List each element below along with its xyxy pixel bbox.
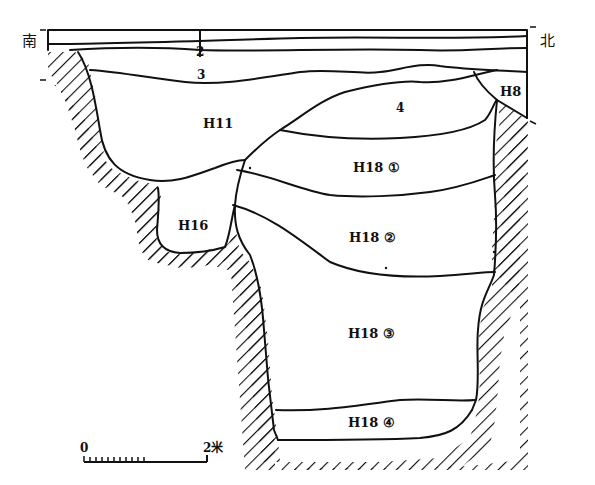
h16-label: H16 [178, 218, 208, 233]
h18-3-4-boundary [276, 399, 475, 410]
h18-4-label: H18 ④ [348, 415, 395, 430]
scale-start-label: 0 [80, 441, 88, 455]
layer-2-bottom [70, 48, 527, 51]
edge-tick [530, 121, 536, 124]
layer-4-bottom [280, 100, 497, 139]
layer-2-label: 2 [196, 45, 204, 59]
h8-label: H8 [500, 84, 521, 99]
h11-label: H11 [203, 116, 233, 131]
natural-soil-hatch-left [48, 48, 528, 470]
scale-end-label: 2米 [203, 440, 224, 455]
south-label: 南 [22, 32, 37, 50]
layer-3-bottom [90, 65, 527, 83]
h18-2-label: H18 ② [349, 230, 396, 245]
layer-4-label: 4 [396, 101, 404, 115]
scale-bar: 0 2米 [80, 440, 224, 462]
h18-3-label: H18 ③ [348, 326, 395, 341]
north-label: 北 [540, 32, 555, 50]
find-dot [385, 267, 387, 269]
layer-4-top [245, 70, 497, 160]
layer-1-bottom [48, 36, 527, 44]
section-drawing: 南 北 2 3 4 H8 H11 H16 H18 ① H18 ② H18 ③ H… [0, 0, 595, 485]
find-dot [249, 167, 251, 169]
layer-3-label: 3 [197, 68, 205, 82]
h18-1-label: H18 ① [353, 160, 400, 175]
find-dot [493, 251, 495, 253]
